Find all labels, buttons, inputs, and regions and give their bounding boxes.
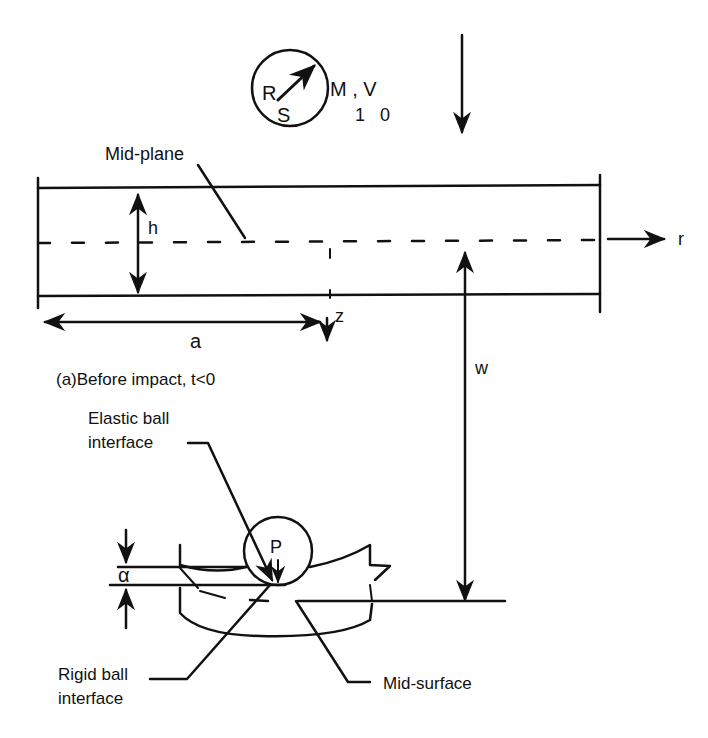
velocity-arrow-icon bbox=[278, 66, 314, 100]
thickness-label: h bbox=[148, 218, 158, 238]
indent-label: α bbox=[118, 564, 130, 586]
symbol-R: R bbox=[262, 82, 276, 104]
plate-lower-surface bbox=[180, 588, 372, 636]
midplane-leader bbox=[198, 165, 245, 238]
midsurface-leader bbox=[296, 601, 370, 682]
midplane-label: Mid-plane bbox=[105, 144, 184, 164]
subscripts-label: 1 0 bbox=[355, 105, 390, 125]
elastic-label-line1: Elastic ball bbox=[88, 409, 169, 428]
plate-top-edge bbox=[38, 185, 600, 188]
rigid-label-line2: interface bbox=[58, 689, 123, 708]
mass-velocity-label: M , V bbox=[330, 78, 377, 100]
impact-diagram: R S M , V 1 0 Mid-plane h a z r w (a)Bef… bbox=[0, 0, 708, 738]
projectile-symbol: R S M , V 1 0 bbox=[252, 50, 390, 126]
deflection-label: w bbox=[474, 358, 489, 378]
r-axis-label: r bbox=[678, 229, 684, 249]
figure-caption: (a)Before impact, t<0 bbox=[56, 370, 215, 389]
plate-bottom-edge bbox=[38, 294, 600, 296]
symbol-S: S bbox=[277, 104, 290, 126]
z-axis-label: z bbox=[335, 306, 344, 326]
force-label: P bbox=[270, 537, 282, 557]
mid-plane-dashed-line bbox=[38, 240, 598, 243]
radius-label: a bbox=[190, 330, 202, 352]
rigid-label-line1: Rigid ball bbox=[58, 665, 128, 684]
elastic-label-line2: interface bbox=[88, 433, 153, 452]
elastic-leader bbox=[188, 443, 272, 580]
plate bbox=[38, 175, 600, 312]
midsurface-label: Mid-surface bbox=[383, 674, 472, 693]
